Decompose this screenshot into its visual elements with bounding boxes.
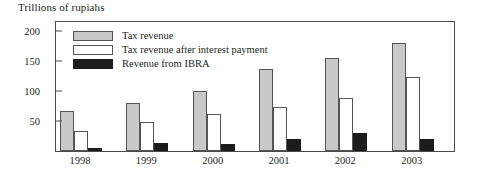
bar [140,122,154,151]
bar [392,43,406,151]
legend-label: Revenue from IBRA [122,58,209,70]
bar-group [321,22,387,151]
legend-item: Tax revenue [73,29,268,42]
bar [420,139,434,151]
y-tick-mark [55,31,62,32]
bar [74,131,88,151]
bar [273,107,287,151]
bar [221,144,235,151]
legend-swatch-icon [73,31,113,41]
x-tick-label: 2000 [202,155,223,166]
y-tick-label: 150 [24,56,40,67]
x-tick-label: 2003 [401,155,422,166]
legend-label: Tax revenue [122,30,173,42]
chart-container: Trillions of rupiahs 50100150200 1998199… [0,0,478,190]
x-tick-label: 1998 [70,155,91,166]
legend-label: Tax revenue after interest payment [122,44,268,56]
chart-legend: Tax revenueTax revenue after interest pa… [73,29,268,71]
legend-item: Revenue from IBRA [73,57,268,70]
bar [339,98,353,151]
bar [193,91,207,151]
x-tick-label: 1999 [136,155,157,166]
y-tick-mark [55,91,62,92]
legend-item: Tax revenue after interest payment [73,43,268,56]
bar [60,111,74,151]
bar [325,58,339,151]
y-axis: 50100150200 [0,21,50,152]
bar [126,103,140,151]
chart-title: Trillions of rupiahs [18,1,105,13]
bar [88,148,102,151]
bar [406,77,420,151]
x-tick-label: 2001 [269,155,290,166]
y-tick-mark [55,61,62,62]
y-tick-mark [55,121,62,122]
x-tick-label: 2002 [335,155,356,166]
bar [207,114,221,151]
bar [154,143,168,151]
y-tick-label: 50 [30,116,41,127]
bar-group [388,22,454,151]
bar [353,133,367,151]
bar [287,139,301,151]
x-axis: 199819992000200120022003 [55,155,455,175]
bar [259,69,273,151]
y-tick-label: 100 [24,86,40,97]
y-tick-label: 200 [24,26,40,37]
legend-swatch-icon [73,59,113,69]
legend-swatch-icon [73,45,113,55]
